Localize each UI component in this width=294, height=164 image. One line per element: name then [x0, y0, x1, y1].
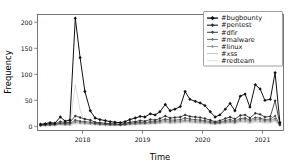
- x-tick-label: 2021: [255, 136, 271, 143]
- x-tick-label: 2018: [75, 136, 91, 143]
- x-tick-label: 2020: [195, 136, 211, 143]
- line-chart: 050100150200 2018201920202021 Time Frequ…: [0, 0, 294, 164]
- x-axis-title: Time: [149, 152, 171, 162]
- y-tick-label: 200: [21, 19, 33, 26]
- y-tick-label: 100: [21, 71, 33, 78]
- y-tick-label: 0: [29, 123, 33, 130]
- chart-legend: #bugbounty#pentest#dfir#malware#linux#xs…: [204, 12, 283, 67]
- y-axis-title: Frequency: [3, 50, 13, 93]
- y-tick-label: 50: [25, 97, 33, 104]
- legend-label: #redteam: [221, 57, 254, 65]
- y-tick-label: 150: [21, 45, 33, 52]
- x-tick-label: 2019: [135, 136, 151, 143]
- figure-container: 050100150200 2018201920202021 Time Frequ…: [0, 0, 294, 164]
